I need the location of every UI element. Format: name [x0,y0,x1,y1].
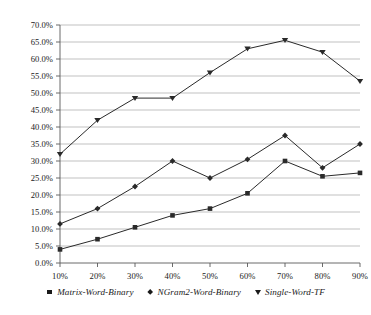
y-axis-tick-label: 65.0% [31,37,53,47]
plot-area-wrapper: 0.0%5.0%10.0%15.0%20.0%25.0%30.0%35.0%40… [0,0,371,315]
data-point-marker [283,159,288,164]
y-axis-tick-label: 50.0% [31,88,53,98]
legend-marker-shape [147,289,153,295]
y-axis-tick-label: 25.0% [31,173,53,183]
legend-entry: NGram2-Word-Binary [147,287,241,297]
x-axis-tick-label: 10% [52,271,68,281]
data-point-marker [244,47,250,52]
data-point-marker [57,152,63,157]
y-axis-tick-label: 60.0% [31,54,53,64]
y-axis-tick-label: 0.0% [35,258,53,268]
y-axis-tick-label: 55.0% [31,71,53,81]
y-axis-tick-label: 15.0% [31,207,53,217]
square-marker-icon [46,289,53,296]
x-axis-tick-label: 30% [127,271,143,281]
data-point-marker [207,175,213,181]
x-axis-tick-label: 40% [165,271,181,281]
data-point-marker [320,174,325,179]
series-line-matrix-word-binary [60,161,360,249]
x-axis-tick-label: 90% [352,271,368,281]
legend-entry: Matrix-Word-Binary [46,287,133,297]
y-axis-tick-label: 40.0% [31,122,53,132]
legend-label: Matrix-Word-Binary [57,287,133,297]
data-point-marker [95,237,100,242]
data-point-marker [133,225,138,230]
data-point-marker [245,191,250,196]
series-ngram2-word-binary [57,133,363,227]
data-point-marker [58,247,63,252]
x-axis-tick-label: 80% [315,271,331,281]
data-point-marker [57,221,63,227]
y-axis-tick-label: 10.0% [31,224,53,234]
triangle-down-marker-icon [254,289,261,296]
data-point-marker [208,206,213,211]
y-axis-tick-label: 5.0% [35,241,53,251]
legend-marker-shape [47,290,51,294]
series-single-word-tf [57,38,363,157]
legend-label: Single-Word-TF [265,287,325,297]
x-axis-tick-label: 50% [202,271,218,281]
data-point-marker [357,141,363,147]
data-point-marker [95,206,101,212]
y-axis-tick-label: 45.0% [31,105,53,115]
x-axis-tick-label: 60% [240,271,256,281]
chart-figure: 0.0%5.0%10.0%15.0%20.0%25.0%30.0%35.0%40… [0,0,371,315]
data-point-marker [132,184,138,190]
x-axis-tick-label: 20% [90,271,106,281]
legend-marker-shape [255,290,261,295]
data-point-marker [357,79,363,84]
diamond-marker-icon [147,289,154,296]
series-line-single-word-tf [60,40,360,154]
y-axis-tick-label: 70.0% [31,20,53,30]
data-point-marker [358,171,363,176]
legend-label: NGram2-Word-Binary [158,287,241,297]
data-point-marker [170,158,176,164]
data-point-marker [170,213,175,218]
line-chart-svg: 0.0%5.0%10.0%15.0%20.0%25.0%30.0%35.0%40… [0,0,371,315]
legend-entry: Single-Word-TF [254,287,325,297]
y-axis-tick-label: 30.0% [31,156,53,166]
x-axis-tick-label: 70% [277,271,293,281]
y-axis-tick-label: 20.0% [31,190,53,200]
chart-legend: Matrix-Word-BinaryNGram2-Word-BinarySing… [0,287,371,297]
y-axis-tick-label: 35.0% [31,139,53,149]
